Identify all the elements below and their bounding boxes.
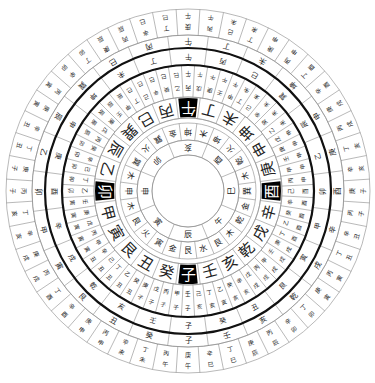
ring-label: 酉 (333, 187, 342, 195)
ring-label: 子 (11, 165, 19, 172)
ring-label: 壬 (185, 290, 191, 297)
ring-label: 丁 (206, 289, 213, 296)
ring-label: 酉 (263, 184, 281, 199)
ring-label: 午 (181, 99, 196, 117)
ring-label: 艮 (184, 246, 192, 255)
ring-label: 坤 (184, 127, 192, 137)
ring-label: 卯 (34, 188, 43, 195)
ring-label: 丙 (20, 188, 28, 194)
ring-label: 子 (160, 302, 167, 309)
ring-label: 巳 (162, 14, 169, 22)
ring-label: 卯 (318, 188, 327, 195)
ring-label: 巳 (227, 187, 236, 195)
ring-label: 巽 (243, 187, 252, 195)
ring-label: 丙 (185, 84, 191, 91)
luopan-compass-diagram: 庚午丙午己未丁未庚申丙申丁酉辛酉庚戌丙戌丁亥辛亥庚子丙子辛丑丁丑丙寅庚寅丁卯辛卯… (0, 0, 375, 383)
ring-label: 酉 (302, 188, 309, 194)
ring-label: 子 (357, 210, 365, 217)
ring-label: 己 (196, 290, 203, 297)
ring-label: 己 (288, 188, 294, 194)
ring-label: 巳 (207, 360, 214, 368)
ring-label: 子 (181, 266, 196, 284)
ring-label: 巳 (160, 73, 167, 80)
ring-label: 庚 (185, 23, 191, 31)
ring-label: 午 (185, 362, 191, 370)
ring-label: 乙 (174, 85, 181, 92)
ring-label: 午 (184, 37, 192, 47)
ring-label: 丁 (22, 209, 30, 216)
ring-label: 子 (359, 188, 366, 194)
ring-label: 卯 (67, 188, 75, 194)
ring-label: 卯 (96, 184, 114, 199)
ring-label: 午 (185, 70, 191, 78)
ring-label: 子 (10, 188, 17, 194)
ring-label: 庚 (185, 351, 191, 359)
ring-label: 丁 (163, 25, 170, 33)
ring-label: 亥 (184, 143, 192, 153)
ring-label: 巳 (173, 72, 180, 79)
ring-label: 午 (185, 12, 191, 20)
ring-label: 酉 (50, 188, 58, 195)
ring-label: 子 (185, 322, 192, 330)
ring-label: 申 (124, 187, 134, 195)
ring-label: 子 (185, 305, 191, 311)
ring-label: 己 (83, 166, 90, 173)
ring-label: 申 (140, 187, 150, 195)
compass-svg: 庚午丙午己未丁未庚申丙申丁酉辛酉庚戌丙戌丁亥辛亥庚子丙子辛丑丁丑丙寅庚寅丁卯辛卯… (0, 0, 375, 383)
ring-label: 乙 (82, 188, 88, 194)
ring-label: 壬 (82, 198, 90, 205)
ring-label: 丁 (82, 177, 89, 184)
ring-label: 子 (173, 304, 180, 311)
ring-label: 庚 (348, 188, 356, 194)
ring-label: 子 (185, 336, 193, 345)
ring-label: 辰 (184, 230, 192, 239)
ring-label: 午 (185, 53, 192, 62)
